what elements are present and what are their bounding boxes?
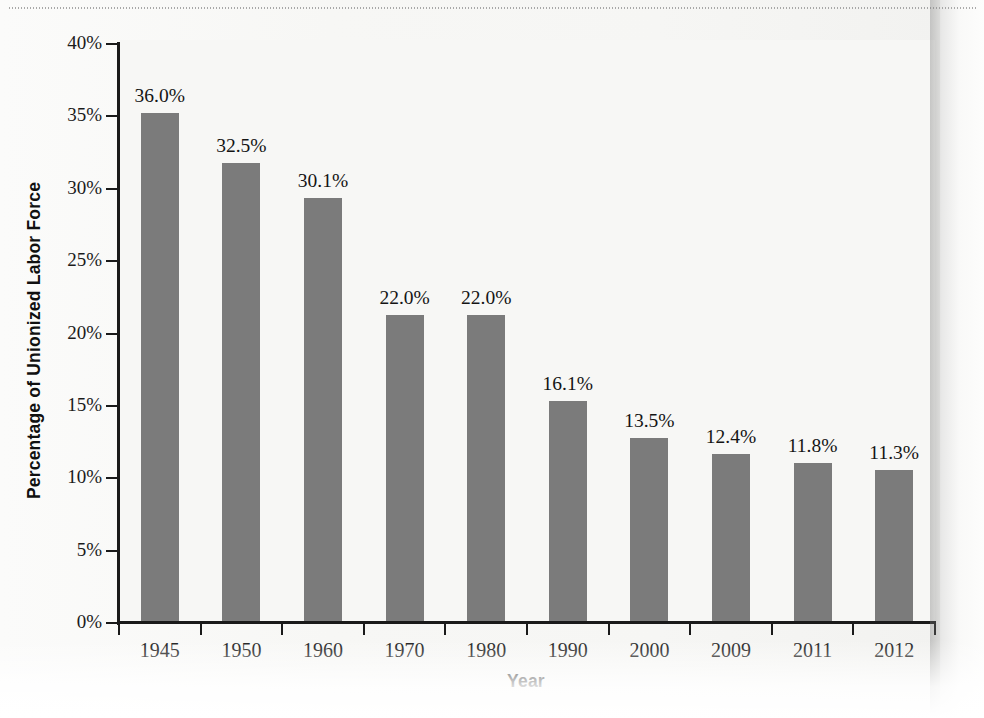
bar-value-label: 13.5% <box>604 411 694 431</box>
bar <box>712 454 750 623</box>
bar <box>222 163 260 623</box>
y-axis-tick-label: 0% <box>40 612 102 631</box>
bar <box>549 401 587 623</box>
bar-value-label: 22.0% <box>360 288 450 308</box>
bar <box>630 438 668 623</box>
y-axis-tick-label: 25% <box>40 250 102 269</box>
y-axis-line <box>117 42 120 625</box>
bar-value-label: 11.3% <box>849 443 939 463</box>
y-axis-tick-label: 30% <box>40 178 102 197</box>
bar <box>794 463 832 623</box>
bar <box>467 315 505 623</box>
bar-value-label: 36.0% <box>115 86 205 106</box>
scanned-page: 0%5%10%15%20%25%30%35%40% 36.0%32.5%30.1… <box>0 0 984 718</box>
bar <box>304 198 342 623</box>
bar <box>875 470 913 623</box>
y-axis-tick-label: 10% <box>40 467 102 486</box>
y-axis-tick-label: 15% <box>40 395 102 414</box>
page-bottom-fade <box>0 640 984 718</box>
bar <box>386 315 424 623</box>
bar <box>141 113 179 623</box>
bar-value-label: 22.0% <box>441 288 531 308</box>
bar-value-label: 32.5% <box>196 136 286 156</box>
page-edge-shadow <box>930 0 984 718</box>
y-axis-tick-label: 5% <box>40 540 102 559</box>
bar-value-label: 11.8% <box>768 436 858 456</box>
y-axis-title: Percentage of Unionized Labor Force <box>24 141 45 541</box>
union-membership-bar-chart: 0%5%10%15%20%25%30%35%40% 36.0%32.5%30.1… <box>0 0 984 718</box>
y-axis-tick-label: 35% <box>40 105 102 124</box>
bar-value-label: 12.4% <box>686 427 776 447</box>
y-axis-tick-label: 20% <box>40 323 102 342</box>
bar-value-label: 30.1% <box>278 171 368 191</box>
bar-value-label: 16.1% <box>523 374 613 394</box>
x-axis-line <box>117 621 935 624</box>
y-axis-tick-label: 40% <box>40 33 102 52</box>
